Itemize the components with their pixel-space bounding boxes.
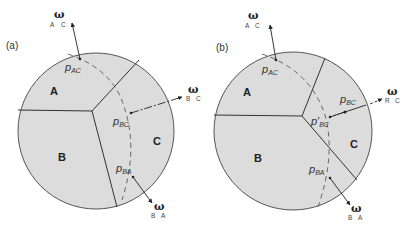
svg-text:B: B [186,95,190,102]
grain-circle [214,52,372,210]
grain-boundary-diagram: (a) A B C pAC pBC pBA ω A C ω B C [0,0,412,227]
svg-text:A: A [358,214,363,221]
svg-text:B: B [348,214,352,221]
arrow-ac [72,23,80,59]
omega-ba-label: ω B A [348,202,363,221]
panel-b: (b) A B C pAC pBC p′BC pBA ω A C ω R C [214,9,400,221]
grain-circle [18,53,174,209]
svg-text:C: C [61,21,66,28]
omega-ba-label: ω B A [151,200,166,219]
omega-ac-label: ω A C [245,9,260,29]
svg-text:B: B [151,212,155,219]
svg-text:ω: ω [54,8,65,21]
svg-text:C: C [255,22,260,29]
omega-bc-label: ω B C [186,83,201,102]
svg-text:A: A [50,21,55,28]
grain-a-label: A [50,85,58,97]
svg-text:C: C [196,95,201,102]
grain-b-label: B [58,151,66,163]
panel-b-label: (b) [216,42,228,53]
omega-bc-label: ω R C [385,85,400,104]
svg-text:R: R [385,97,390,104]
panel-a-label: (a) [6,40,18,51]
svg-text:C: C [395,97,400,104]
grain-b-label: B [254,152,262,164]
grain-c-label: C [350,138,358,150]
svg-text:A: A [161,212,166,219]
arrow-bc [370,99,382,104]
svg-text:ω: ω [248,9,259,22]
omega-ac-label: ω A C [50,8,66,28]
svg-text:A: A [245,22,250,29]
grain-c-label: C [153,135,161,147]
panel-a: (a) A B C pAC pBC pBA ω A C ω B C [6,8,201,219]
point-pbc [344,111,347,114]
grain-a-label: A [243,86,251,98]
